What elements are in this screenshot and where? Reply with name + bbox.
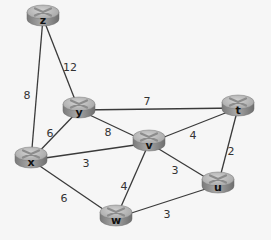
edge-weight-label: 3: [164, 208, 171, 221]
router-node-t: t: [222, 95, 254, 117]
edge-weight-label: 4: [121, 180, 128, 193]
router-node-x: x: [15, 147, 47, 169]
edge-y-t: [79, 108, 238, 110]
network-graph: 8127683434263 zytvxuw: [0, 0, 271, 240]
router-label: z: [40, 14, 46, 27]
edge-weight-label: 3: [172, 164, 179, 177]
edge-weight-label: 3: [83, 157, 90, 170]
router-node-y: y: [63, 97, 95, 119]
router-node-z: z: [27, 5, 59, 27]
edge-weight-label: 8: [105, 126, 112, 139]
router-node-w: w: [100, 205, 132, 227]
edge-weight-label: 6: [47, 127, 54, 140]
edge-weight-label: 7: [144, 95, 151, 108]
edge-labels-layer: 8127683434263: [24, 61, 235, 221]
edge-weight-label: 6: [61, 192, 68, 205]
edge-weight-label: 12: [63, 61, 77, 74]
edge-weight-label: 4: [190, 129, 197, 142]
router-label: x: [27, 156, 34, 169]
edge-x-v: [31, 143, 149, 160]
router-node-v: v: [133, 130, 165, 152]
router-label: y: [75, 106, 82, 119]
edge-weight-label: 8: [24, 89, 31, 102]
edge-z-x: [31, 18, 43, 160]
router-label: u: [214, 181, 222, 194]
router-label: t: [235, 104, 240, 117]
router-node-u: u: [202, 172, 234, 194]
edge-weight-label: 2: [228, 145, 235, 158]
router-label: v: [145, 139, 153, 152]
router-label: w: [111, 214, 121, 227]
